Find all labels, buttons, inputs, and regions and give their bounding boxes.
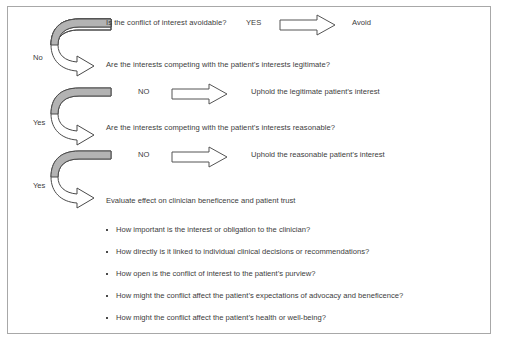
evaluation-bullet-list: How important is the interest or obligat… xyxy=(106,226,476,336)
list-item: How might the conflict affect the patien… xyxy=(106,292,476,300)
decision-outcome-2: Uphold the legitimate patient’s interest xyxy=(251,88,380,96)
block-arrow-right-icon xyxy=(171,83,228,105)
decision-outcome-3: Uphold the reasonable patient’s interest xyxy=(251,151,385,159)
list-item: How important is the interest or obligat… xyxy=(106,226,476,234)
decision-question-2: Are the interests competing with the pat… xyxy=(106,61,330,69)
decision-branch-label-1: YES xyxy=(246,19,261,27)
decision-branch-label-3: NO xyxy=(138,151,149,159)
list-item: How directly is it linked to individual … xyxy=(106,248,476,256)
decision-question-3: Are the interests competing with the pat… xyxy=(106,124,335,132)
evaluation-heading: Evaluate effect on clinician beneficence… xyxy=(106,197,295,205)
decision-outcome-1: Avoid xyxy=(352,19,371,27)
decision-branch-label-2: NO xyxy=(138,88,149,96)
branch-side-label-yes-1: Yes xyxy=(33,119,45,127)
branch-side-label-yes-2: Yes xyxy=(33,182,45,190)
list-item: How might the conflict affect the patien… xyxy=(106,314,476,322)
list-item: How open is the conflict of interest to … xyxy=(106,270,476,278)
branch-side-label-no: No xyxy=(33,54,43,62)
block-arrow-right-icon xyxy=(279,14,336,36)
curved-loop-arrow-icon xyxy=(49,83,117,145)
decision-question-1: Is the conflict of interest avoidable? xyxy=(106,19,227,27)
block-arrow-right-icon xyxy=(171,146,228,168)
figure-border-frame: No Yes Yes Is the conflict of interest a… xyxy=(7,6,491,334)
